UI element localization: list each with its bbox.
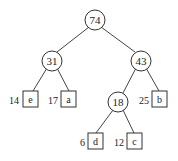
leaf-weight: 14	[9, 95, 19, 106]
node-value: 18	[113, 96, 125, 108]
leaf-d: 6 d	[80, 133, 103, 149]
leaf-symbol: e	[28, 94, 33, 105]
leaf-symbol: a	[66, 94, 71, 105]
node-value: 31	[47, 55, 58, 67]
edge-18-c	[123, 110, 134, 133]
edges	[33, 27, 159, 133]
huffman-tree-diagram: 74 31 43 18 14 e 17 a 25 b 6 d 12 c	[0, 0, 178, 161]
leaf-weight: 25	[139, 95, 149, 106]
leaf-a: 17 a	[48, 91, 76, 107]
edge-74-31	[57, 27, 89, 52]
edge-43-18	[123, 68, 136, 93]
leaf-weight: 12	[114, 137, 124, 148]
leaf-symbol: c	[132, 136, 137, 147]
leaf-c: 12 c	[114, 133, 142, 149]
edge-31-a	[57, 68, 69, 91]
leaf-e: 14 e	[9, 91, 38, 107]
node-31: 31	[42, 51, 62, 71]
node-value: 74	[90, 14, 102, 26]
leaf-symbol: d	[93, 136, 98, 147]
node-18: 18	[108, 92, 128, 112]
leaf-b: 25 b	[139, 91, 167, 107]
node-value: 43	[136, 55, 148, 67]
edge-31-e	[33, 68, 47, 91]
node-root: 74	[85, 10, 105, 30]
edge-18-d	[96, 110, 113, 133]
node-43: 43	[131, 51, 151, 71]
leaf-symbol: b	[157, 94, 162, 105]
leaf-weight: 6	[80, 137, 85, 148]
edge-43-b	[146, 68, 159, 91]
leaf-weight: 17	[48, 95, 58, 106]
edge-74-43	[101, 27, 135, 52]
